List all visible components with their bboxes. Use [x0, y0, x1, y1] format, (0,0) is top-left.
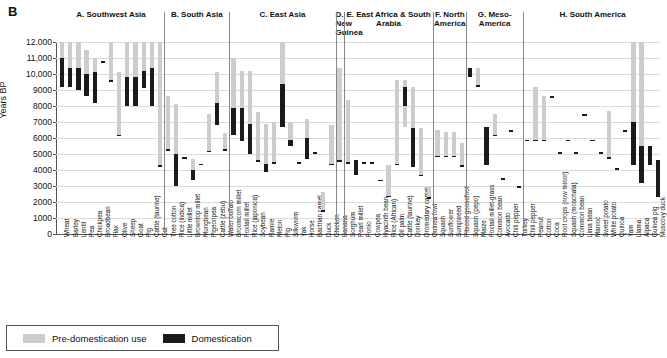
bar-domestication [84, 74, 88, 96]
bar-group[interactable] [288, 42, 292, 234]
bar-domestication [166, 149, 170, 151]
bar-group[interactable] [395, 42, 399, 234]
panel-title-f: F. North America [433, 10, 466, 28]
chart-panel-c: C. East AsiaBroomcorn milletFoxtail mill… [229, 42, 335, 234]
bar-group[interactable] [444, 42, 448, 234]
bar-pre-domestication [68, 42, 72, 68]
bar-pre-domestication [125, 42, 129, 77]
panel-title-h: H. South America [523, 10, 662, 19]
bar-group[interactable] [590, 42, 594, 234]
y-tick-mark [53, 122, 56, 123]
bar-domestication [158, 165, 162, 167]
bar-domestication [313, 152, 317, 154]
bar-group[interactable] [542, 42, 546, 234]
bar-pre-domestication [117, 72, 121, 136]
bar-group[interactable] [117, 42, 121, 234]
bar-domestication [329, 164, 333, 166]
panel-divider [523, 12, 524, 234]
bar-group[interactable] [337, 42, 341, 234]
bar-domestication [362, 162, 366, 164]
bar-group[interactable] [370, 42, 374, 234]
bar-domestication [395, 164, 399, 166]
bar-domestication [656, 160, 660, 197]
bar-pre-domestication [207, 114, 211, 152]
legend-swatch-domestication [163, 334, 185, 343]
bar-domestication [444, 156, 448, 158]
bar-domestication [346, 162, 350, 164]
chart-panel-f: F. North AmericaSquashSunflowerSumpweedP… [433, 42, 466, 234]
bar-pre-domestication [231, 58, 235, 108]
bar-group[interactable] [125, 42, 129, 234]
bar-group[interactable] [84, 42, 88, 234]
bar-domestication [305, 138, 309, 159]
bar-group[interactable] [68, 42, 72, 234]
bar-domestication [476, 85, 480, 87]
bar-group[interactable] [264, 42, 268, 234]
bar-group[interactable] [321, 42, 325, 234]
bar-group[interactable] [256, 42, 260, 234]
bar-group[interactable] [550, 42, 554, 234]
legend-item-domestication[interactable]: Domestication [163, 333, 252, 344]
legend-swatch-pre-domestication [23, 334, 45, 343]
bar-domestication [435, 156, 439, 158]
bar-group[interactable] [207, 42, 211, 234]
bar-pre-domestication [321, 192, 325, 211]
bar-group[interactable] [329, 42, 333, 234]
bar-pre-domestication [435, 130, 439, 157]
bar-group[interactable] [533, 42, 537, 234]
bar-group[interactable] [623, 42, 627, 234]
bar-group[interactable] [199, 42, 203, 234]
bar-group[interactable] [93, 42, 97, 234]
bar-domestication [264, 164, 268, 172]
y-tick-mark [53, 218, 56, 219]
bar-domestication [248, 124, 252, 154]
bar-group[interactable] [76, 42, 80, 234]
y-tick-label: 9000 [33, 86, 52, 94]
bar-group[interactable] [631, 42, 635, 234]
bar-group[interactable] [517, 42, 521, 234]
bar-group[interactable] [582, 42, 586, 234]
bar-group[interactable] [615, 42, 619, 234]
bar-domestication [288, 140, 292, 146]
y-tick-mark [53, 90, 56, 91]
bar-domestication [378, 180, 382, 182]
bar-group[interactable] [60, 42, 64, 234]
panel-divider [336, 12, 337, 234]
bar-group[interactable] [109, 42, 113, 234]
bar-group[interactable] [648, 42, 652, 234]
chart-legend: Pre-domestication useDomestication [6, 325, 279, 351]
bar-group[interactable] [272, 42, 276, 234]
bar-domestication [517, 186, 521, 188]
bar-group[interactable] [305, 42, 309, 234]
bar-group[interactable] [142, 42, 146, 234]
y-tick-label: 0 [47, 230, 52, 238]
bar-group[interactable] [362, 42, 366, 234]
bar-group[interactable] [297, 42, 301, 234]
bar-group[interactable] [435, 42, 439, 234]
bar-domestication [452, 156, 456, 158]
bar-group[interactable] [158, 42, 162, 234]
bar-domestication [60, 58, 64, 87]
bar-domestication [240, 108, 244, 142]
y-tick-mark [53, 42, 56, 43]
bar-group[interactable] [639, 42, 643, 234]
bar-pre-domestication [256, 112, 260, 162]
bar-group[interactable] [476, 42, 480, 234]
bar-domestication [525, 140, 529, 142]
bar-pre-domestication [444, 132, 448, 158]
bar-pre-domestication [386, 165, 390, 197]
bar-group[interactable] [411, 42, 415, 234]
bar-group[interactable] [280, 42, 284, 234]
bar-domestication [321, 210, 325, 212]
bar-group[interactable] [182, 42, 186, 234]
bar-domestication [607, 157, 611, 159]
y-tick-mark [53, 202, 56, 203]
legend-item-pre-domestication[interactable]: Pre-domestication use [23, 333, 147, 344]
bar-group[interactable] [346, 42, 350, 234]
bar-domestication [337, 160, 341, 162]
y-tick-label: 5000 [33, 150, 52, 158]
bar-pre-domestication [395, 80, 399, 165]
bar-group[interactable] [133, 42, 137, 234]
bar-domestication [631, 122, 635, 165]
bar-group[interactable] [501, 42, 505, 234]
